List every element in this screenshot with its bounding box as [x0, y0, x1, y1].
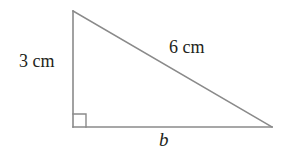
hypotenuse-label: 6 cm [169, 38, 205, 56]
triangle-svg [0, 0, 290, 156]
vertical-leg-label: 3 cm [19, 52, 55, 70]
right-angle-marker-icon [73, 114, 86, 127]
hypotenuse-line [73, 11, 272, 127]
right-triangle-figure: 3 cm 6 cm b [0, 0, 290, 156]
base-label: b [159, 130, 169, 149]
